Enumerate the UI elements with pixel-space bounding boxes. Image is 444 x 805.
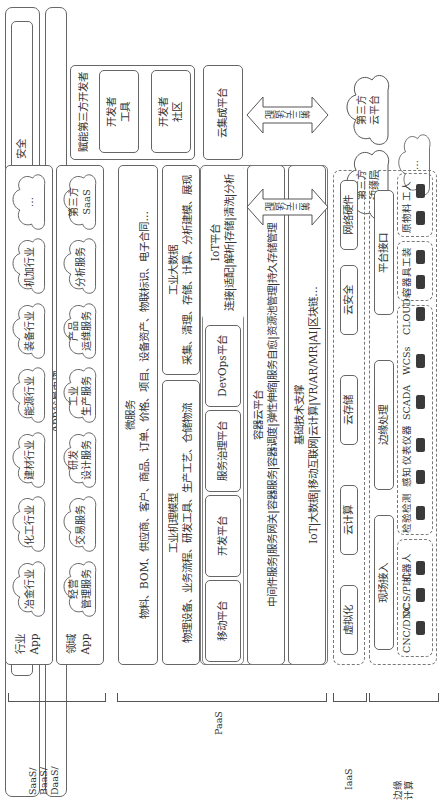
field-access-label: 现场接入 bbox=[377, 563, 391, 603]
domain-service-cloud: 工业 生产服务 bbox=[59, 365, 101, 427]
iaas-item-label: 云计算 bbox=[342, 505, 356, 535]
edge-device-label: WCSs bbox=[401, 347, 413, 375]
iaas-item-box: 云存储 bbox=[340, 375, 358, 445]
edge-device: 工人 bbox=[401, 181, 425, 201]
edge-device-label: 容器具 bbox=[401, 267, 413, 297]
domain-service-label: 产品 运维服务 bbox=[59, 300, 101, 362]
saas-layer-brace bbox=[8, 693, 106, 702]
domain-service-label: 交易服务 bbox=[59, 494, 101, 556]
mechanism-model-title: 工业机理模型 bbox=[167, 493, 181, 553]
domain-service-label: 研发 设计服务 bbox=[59, 429, 101, 491]
cloud-integration-label: 云集成平台 bbox=[216, 88, 230, 138]
industry-label: 冶金行业 bbox=[8, 558, 50, 620]
industry-cloud: 能源行业 bbox=[8, 365, 50, 427]
edge-device: SCADA bbox=[401, 385, 425, 420]
industry-cloud: 装备行业 bbox=[8, 300, 50, 362]
iaas-item-label: 网络硬件 bbox=[342, 195, 356, 235]
domain-service-cloud: 经营 管理服务 bbox=[59, 558, 101, 620]
mechanism-model-text: 物理设备、业务流程、研发工具、生产工艺、仓储物流 bbox=[181, 403, 195, 643]
domain-service-label: 分析服务 bbox=[59, 236, 101, 298]
iaas-item-box: 云安全 bbox=[340, 265, 358, 335]
device-icon bbox=[416, 184, 425, 198]
domain-service-cloud: 产品 运维服务 bbox=[59, 300, 101, 362]
saas-layer-label: SaaS/ BaaS/ DaaS/ bbox=[28, 740, 88, 800]
bigdata-box: 工业大数据 采集、清理、存储、计算、分析建模、展现 bbox=[162, 165, 200, 375]
field-access-box: 现场接入 bbox=[374, 515, 394, 650]
domain-service-label: 工业 生产服务 bbox=[59, 365, 101, 427]
third-party-cloud-platform: 第三方 云平台 bbox=[338, 70, 398, 150]
device-icon bbox=[416, 211, 425, 225]
edge-device-label: 原物料 bbox=[401, 203, 413, 233]
device-icon bbox=[416, 561, 425, 575]
security-label: 安全 bbox=[15, 139, 29, 159]
edge-device: 容器具 bbox=[401, 267, 425, 297]
cloud-integration-box: 云集成平台 bbox=[203, 65, 243, 160]
edge-device: 检验检测 bbox=[401, 493, 425, 533]
edge-device: CLOUDs bbox=[401, 293, 425, 335]
edge-device-label: 机器人 bbox=[401, 553, 413, 583]
edge-device-label: 检验检测 bbox=[401, 493, 413, 533]
industry-cloud: 建材行业 bbox=[8, 429, 50, 491]
third-party-adapter-arrow-1: 第三方适配 bbox=[245, 95, 330, 135]
iaas-item-label: 云安全 bbox=[342, 285, 356, 315]
iaas-item-box: 虚拟化 bbox=[340, 585, 358, 655]
industry-label: 建材行业 bbox=[8, 429, 50, 491]
device-icon bbox=[416, 588, 425, 602]
device-icon bbox=[416, 395, 425, 409]
industry-cloud: 机加行业 bbox=[8, 236, 50, 298]
edge-device: 原物料 bbox=[401, 203, 425, 233]
iaas-item-box: 网络硬件 bbox=[340, 180, 358, 250]
industry-cloud: … bbox=[8, 171, 50, 233]
industry-label: … bbox=[8, 171, 50, 233]
mechanism-model-box: 工业机理模型 物理设备、业务流程、研发工具、生产工艺、仓储物流 bbox=[162, 380, 200, 665]
iaas-layer-brace bbox=[333, 693, 367, 702]
bigdata-text: 采集、清理、存储、计算、分析建模、展现 bbox=[181, 175, 195, 365]
microservice-box: 微服务 物料、BOM、供应商、客户、商品、订单、价格、项目、设备资产、物联标识、… bbox=[118, 165, 158, 665]
industry-label: 机加行业 bbox=[8, 236, 50, 298]
third-party-cloud-platform-label: 第三方 云平台 bbox=[338, 70, 398, 150]
iaas-item-label: 虚拟化 bbox=[342, 605, 356, 635]
domain-service-cloud: 分析服务 bbox=[59, 236, 101, 298]
microservice-text: 物料、BOM、供应商、客户、商品、订单、价格、项目、设备资产、物联标识、电子合同… bbox=[138, 211, 152, 619]
industry-cloud: 冶金行业 bbox=[8, 558, 50, 620]
edge-device-label: 工装 bbox=[401, 247, 413, 267]
domain-service-label: 经营 管理服务 bbox=[59, 558, 101, 620]
developer-enablement-box: 赋能第三方开发者 开发者工具 开发者社区 bbox=[70, 65, 195, 160]
edge-device-label: 仪表仪器 bbox=[401, 425, 413, 465]
device-icon bbox=[416, 275, 425, 289]
edge-device: 工装 bbox=[401, 247, 425, 267]
device-icon bbox=[416, 354, 425, 368]
bigdata-title: 工业大数据 bbox=[167, 245, 181, 295]
paas-right-outer bbox=[200, 165, 328, 665]
architecture-diagram: 安全 标准 App交易市场 赋能第三方开发者 开发者工具 开发者社区 行业 Ap… bbox=[0, 0, 444, 805]
edge-device: WCSs bbox=[401, 347, 425, 375]
device-icon bbox=[416, 250, 425, 264]
developer-tools-box: 开发者工具 bbox=[99, 70, 139, 153]
adapter-label-1: 第三方适配 bbox=[265, 109, 310, 122]
developer-community-box: 开发者社区 bbox=[151, 70, 191, 153]
device-icon bbox=[416, 438, 425, 452]
industry-app-label: 行业 App bbox=[14, 630, 41, 658]
platform-interface-box: 平台接口 bbox=[374, 190, 394, 315]
industry-label: 装备行业 bbox=[8, 300, 50, 362]
iaas-item-label: 云存储 bbox=[342, 395, 356, 425]
edge-processing-label: 边缘处理 bbox=[377, 405, 391, 445]
edge-device-label: SCADA bbox=[401, 385, 413, 420]
paas-layer-brace bbox=[117, 693, 327, 702]
domain-app-label: 领域 App bbox=[65, 630, 92, 658]
adapter-label-2: 第三方适配 bbox=[265, 201, 310, 214]
edge-device: 仪表仪器 bbox=[401, 425, 425, 465]
paas-layer-label: PaaS bbox=[213, 711, 224, 735]
device-icon bbox=[416, 470, 425, 484]
iaas-item-box: 云计算 bbox=[340, 485, 358, 555]
edge-device: 机器人 bbox=[401, 553, 425, 583]
microservice-title: 微服务 bbox=[124, 400, 138, 430]
edge-processing-box: 边缘处理 bbox=[374, 360, 394, 490]
domain-service-cloud: 研发 设计服务 bbox=[59, 429, 101, 491]
device-icon bbox=[416, 506, 425, 520]
edge-device-label: 工人 bbox=[401, 181, 413, 201]
developer-community-label: 开发者社区 bbox=[157, 97, 184, 127]
domain-service-label: 第三方 SaaS bbox=[59, 171, 101, 233]
domain-service-cloud: 交易服务 bbox=[59, 494, 101, 556]
device-icon bbox=[416, 307, 425, 321]
